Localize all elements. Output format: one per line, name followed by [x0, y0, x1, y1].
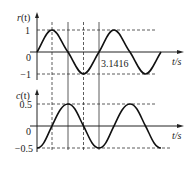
- tick-label-pos: 0.5: [20, 99, 33, 110]
- annotation-pi: 3.1416: [101, 58, 129, 69]
- y-axis-arrow-icon: [35, 89, 39, 95]
- x-label-bottom: t/s: [172, 130, 182, 141]
- tick-label-zero: 0: [26, 52, 31, 63]
- plot-c: c(t) 0.5 0 −0.5 t/s: [15, 89, 184, 154]
- tick-label-zero: 0: [26, 126, 31, 137]
- tick-label-pos: 1: [25, 25, 30, 36]
- tick-label-neg: −0.5: [15, 143, 33, 154]
- vertical-guides: [52, 22, 99, 150]
- plot-r: r(t) 1 0 −1 3.1416 t/s: [17, 12, 184, 80]
- x-label-top: t/s: [172, 56, 182, 67]
- y-axis-arrow-icon: [35, 12, 39, 18]
- x-axis-arrow-icon: [177, 50, 184, 54]
- figure: r(t) 1 0 −1 3.1416 t/s c(t) 0.5 0 −0.5 t…: [0, 0, 194, 169]
- x-axis-arrow-icon: [177, 124, 184, 128]
- y-label-r: r(t): [17, 12, 30, 24]
- tick-label-neg: −1: [20, 69, 31, 80]
